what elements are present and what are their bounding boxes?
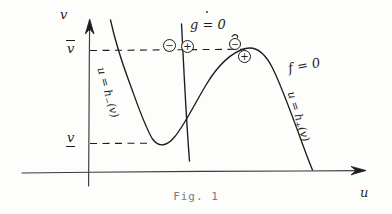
u-axis xyxy=(22,166,366,174)
v-axis xyxy=(85,19,94,186)
figure-panel: v u v v g = 0 f = 0 u = h−(v) u = h+(v) … xyxy=(0,0,392,214)
tick-label-v-upper-text: v xyxy=(66,42,75,55)
figure-caption: Fig. 1 xyxy=(0,190,392,203)
phase-plane-diagram xyxy=(0,0,392,214)
tick-label-v-upper: v xyxy=(66,42,75,55)
sign-badge-plus-below-peak: + xyxy=(238,50,251,63)
f-nullcline-curve xyxy=(111,20,313,170)
g-label-dot-icon xyxy=(206,11,208,13)
tick-label-v-lower-text: v xyxy=(66,131,75,144)
sign-badge-minus-above-peak: − xyxy=(229,38,241,50)
sign-badge-plus-right-of-g: + xyxy=(181,40,194,53)
sign-badge-minus-left-of-g: − xyxy=(163,39,176,52)
v-axis-label: v xyxy=(60,8,67,21)
tick-label-v-lower: v xyxy=(66,131,75,144)
g-nullcline-label: g = 0 xyxy=(190,18,226,31)
